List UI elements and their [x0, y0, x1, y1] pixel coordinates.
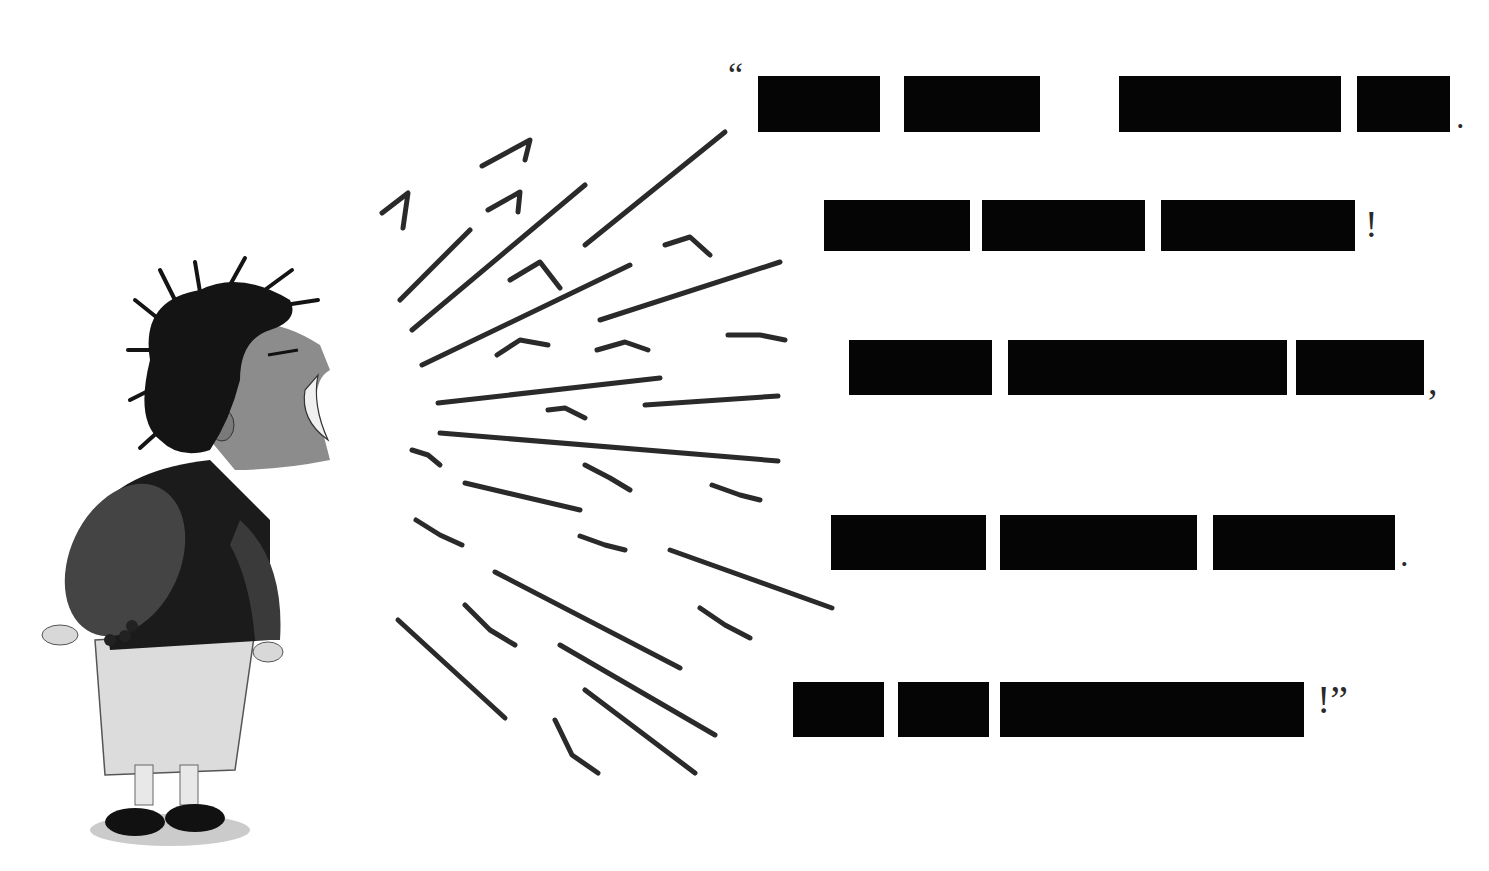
redaction-bar: [831, 515, 986, 570]
redaction-bar: [1000, 515, 1197, 570]
line-end-punctuation: .: [1400, 538, 1409, 572]
open-quote-mark: “: [728, 58, 743, 92]
line-end-punctuation: !: [1365, 205, 1378, 243]
redaction-bar: [1357, 76, 1450, 132]
redaction-bar: [793, 682, 884, 737]
redaction-bar: [849, 340, 992, 395]
redaction-bar: [1296, 340, 1424, 395]
redaction-bar: [1000, 682, 1304, 737]
redaction-bar: [1119, 76, 1341, 132]
redaction-bar: [824, 200, 970, 251]
line-end-punctuation: ,: [1428, 362, 1438, 400]
redaction-bar: [982, 200, 1145, 251]
redaction-bar: [758, 76, 880, 132]
redaction-bar: [1008, 340, 1287, 395]
line-end-punctuation: !”: [1317, 680, 1348, 720]
redaction-bar: [1161, 200, 1355, 251]
redaction-bar: [1213, 515, 1395, 570]
redaction-bar: [898, 682, 989, 737]
line-end-punctuation: .: [1456, 100, 1465, 134]
redaction-bar: [904, 76, 1040, 132]
